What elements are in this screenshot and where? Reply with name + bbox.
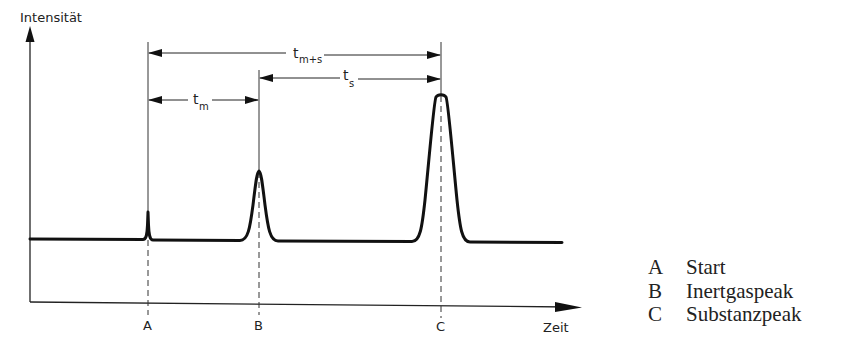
x-axis-arrow-icon xyxy=(555,302,582,312)
svg-text:m: m xyxy=(199,101,209,112)
x-axis: Zeit xyxy=(30,302,582,335)
legend-item-b: B Inertgaspeak xyxy=(648,280,801,304)
interval-ts: t s xyxy=(260,67,440,89)
y-axis-arrow-icon xyxy=(26,26,35,42)
legend: A Start B Inertgaspeak C Substanzpeak xyxy=(648,256,801,327)
tick-label-b: B xyxy=(254,318,263,333)
reference-lines xyxy=(148,42,441,318)
x-axis-label: Zeit xyxy=(543,320,569,335)
y-axis-label: Intensität xyxy=(20,10,82,25)
y-axis: Intensität xyxy=(20,10,82,302)
interval-tm: t m xyxy=(149,91,258,112)
interval-tms: t m+s xyxy=(149,45,440,65)
legend-item-c: C Substanzpeak xyxy=(648,303,801,327)
tick-label-a: A xyxy=(143,318,152,333)
svg-text:s: s xyxy=(349,78,354,89)
svg-text:m+s: m+s xyxy=(299,54,322,65)
legend-item-a: A Start xyxy=(648,256,801,280)
signal-trace xyxy=(30,95,562,243)
tick-label-c: C xyxy=(436,319,445,334)
